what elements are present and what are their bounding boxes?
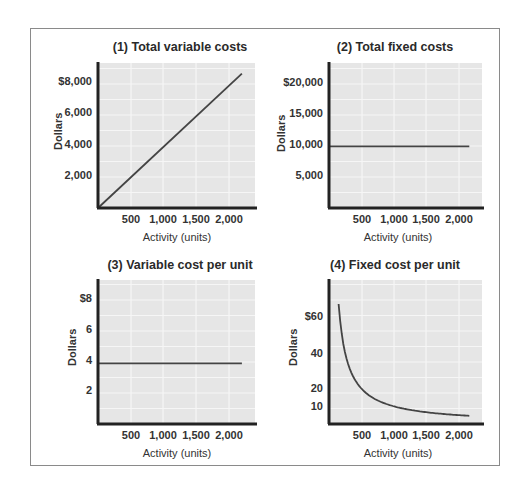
plot-area <box>326 60 487 213</box>
plot-area <box>95 60 260 213</box>
y-axis-label: Dollars <box>287 329 299 366</box>
y-tick-label: 10 <box>271 400 323 412</box>
chart-title: (2) Total fixed costs <box>285 40 505 54</box>
x-tick-label: 2,000 <box>439 429 479 441</box>
plot-area <box>326 277 487 429</box>
y-axis-label: Dollars <box>275 115 287 152</box>
y-tick-label: $8 <box>40 292 92 304</box>
plot-area <box>95 277 260 429</box>
chart-title: (4) Fixed cost per unit <box>285 258 505 272</box>
y-tick-label: 4,000 <box>40 138 92 150</box>
y-tick-label: 5,000 <box>271 169 323 181</box>
chart-title: (1) Total variable costs <box>75 40 285 54</box>
y-axis-label: Dollars <box>52 113 64 150</box>
x-axis-label: Activity (units) <box>97 447 257 459</box>
x-axis-label: Activity (units) <box>318 231 478 243</box>
y-tick-label: $60 <box>271 310 323 322</box>
chart-title: (3) Variable cost per unit <box>75 258 285 272</box>
y-tick-label: $20,000 <box>271 76 323 88</box>
y-tick-label: 6,000 <box>40 106 92 118</box>
x-axis-label: Activity (units) <box>97 231 257 243</box>
x-tick-label: 2,000 <box>209 213 249 225</box>
y-tick-label: $8,000 <box>40 75 92 87</box>
x-tick-label: 2,000 <box>209 429 249 441</box>
y-tick-label: 20 <box>271 382 323 394</box>
y-tick-label: 2 <box>40 384 92 396</box>
x-tick-label: 2,000 <box>439 213 479 225</box>
y-tick-label: 2,000 <box>40 169 92 181</box>
y-axis-label: Dollars <box>66 329 78 366</box>
x-axis-label: Activity (units) <box>318 447 478 459</box>
